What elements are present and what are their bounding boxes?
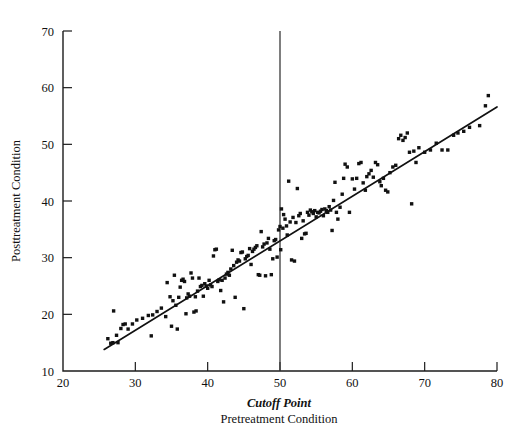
data-point <box>233 296 236 299</box>
data-point <box>406 131 409 134</box>
x-tick-label: 40 <box>201 376 214 390</box>
data-point <box>168 295 171 298</box>
y-tick-label: 70 <box>42 25 55 39</box>
data-point <box>177 296 180 299</box>
data-point <box>189 271 192 274</box>
x-axis-title: Pretreatment Condition <box>221 412 339 426</box>
data-point <box>484 104 487 107</box>
data-point <box>115 334 118 337</box>
data-point <box>282 213 285 216</box>
data-point <box>241 250 244 253</box>
data-point <box>171 299 174 302</box>
data-point <box>478 124 481 127</box>
data-point <box>155 310 158 313</box>
plot-canvas: 1020304050607020304050607080Cutoff Point… <box>0 0 525 439</box>
data-point <box>293 259 296 262</box>
data-point <box>238 259 241 262</box>
data-point <box>197 276 200 279</box>
data-point <box>283 217 286 220</box>
data-point <box>408 151 411 154</box>
data-point <box>335 211 338 214</box>
data-point <box>220 279 223 282</box>
data-point <box>223 276 226 279</box>
y-tick-label: 20 <box>42 308 55 322</box>
data-point <box>281 227 284 230</box>
data-point <box>320 208 323 211</box>
y-tick-label: 30 <box>42 251 55 265</box>
data-point <box>346 165 349 168</box>
data-point <box>369 169 372 172</box>
data-point <box>126 327 129 330</box>
y-tick-label: 50 <box>42 138 55 152</box>
data-point <box>191 276 194 279</box>
data-point <box>287 179 290 182</box>
data-point <box>403 136 406 139</box>
data-point <box>341 193 344 196</box>
data-point <box>275 255 278 258</box>
data-point <box>299 212 302 215</box>
data-point <box>267 237 270 240</box>
data-point <box>361 181 364 184</box>
data-point <box>173 274 176 277</box>
data-point <box>468 126 471 129</box>
data-point <box>291 216 294 219</box>
data-point <box>222 300 225 303</box>
data-point <box>210 285 213 288</box>
data-point <box>376 163 379 166</box>
y-tick-label: 10 <box>42 365 55 379</box>
data-point <box>351 177 354 180</box>
data-point <box>301 219 304 222</box>
data-point <box>353 187 356 190</box>
data-point <box>274 238 277 241</box>
data-point <box>277 228 280 231</box>
data-point <box>232 264 235 267</box>
data-point <box>410 202 413 205</box>
data-point <box>249 263 252 266</box>
data-point <box>270 273 273 276</box>
y-tick-label: 40 <box>42 195 55 209</box>
data-point <box>333 181 336 184</box>
data-point <box>359 161 362 164</box>
data-point <box>242 307 245 310</box>
data-point <box>462 130 465 133</box>
data-point <box>178 285 181 288</box>
data-point <box>106 337 109 340</box>
data-point <box>202 295 205 298</box>
data-point <box>372 176 375 179</box>
data-point <box>338 206 341 209</box>
data-point <box>294 221 297 224</box>
data-point <box>397 137 400 140</box>
data-point <box>399 134 402 137</box>
data-point <box>417 146 420 149</box>
data-point <box>296 187 299 190</box>
data-point <box>119 327 122 330</box>
data-point <box>124 322 127 325</box>
data-point <box>219 289 222 292</box>
data-point <box>131 322 134 325</box>
data-point <box>176 327 179 330</box>
data-point <box>170 325 173 328</box>
x-tick-label: 60 <box>346 376 359 390</box>
data-point <box>290 258 293 261</box>
data-point <box>183 280 186 283</box>
data-point <box>258 274 261 277</box>
data-point <box>355 177 358 180</box>
data-point <box>184 312 187 315</box>
data-point <box>412 149 415 152</box>
data-point <box>200 284 203 287</box>
data-point <box>446 148 449 151</box>
data-point <box>414 161 417 164</box>
data-point <box>332 199 335 202</box>
data-point <box>255 244 258 247</box>
x-tick-label: 30 <box>129 376 142 390</box>
data-point <box>279 248 282 251</box>
data-point <box>386 190 389 193</box>
y-tick-label: 60 <box>42 81 55 95</box>
data-point <box>212 254 215 257</box>
data-point <box>165 281 168 284</box>
data-point <box>330 229 333 232</box>
data-point <box>380 184 383 187</box>
data-point <box>313 209 316 212</box>
data-point <box>135 318 138 321</box>
x-tick-label: 80 <box>491 376 504 390</box>
